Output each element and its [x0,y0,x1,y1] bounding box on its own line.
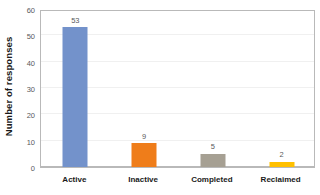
plot-area: 53952 [40,10,315,168]
bar-group: 9 [110,11,179,167]
bar-value-label: 9 [142,133,146,141]
y-axis-title: Number of responses [0,0,18,172]
y-axis-tick-label: 60 [27,6,35,15]
x-axis-tick-label: Reclaimed [261,175,301,184]
bar-value-label: 5 [211,143,215,151]
bar-completed[interactable] [200,154,225,167]
bar-group: 2 [247,11,316,167]
bar-value-label: 53 [71,17,79,25]
bar-chart: Number of responses 0102030405060 53952 … [0,0,320,195]
x-axis-tick-labels: ActiveInactiveCompletedReclaimed [40,170,315,192]
bar-active[interactable] [63,27,88,167]
y-axis-tick-labels: 0102030405060 [18,10,38,168]
y-axis-tick-label: 40 [27,58,35,67]
x-axis-tick-label: Completed [191,175,232,184]
x-axis-tick-label: Active [62,175,86,184]
y-axis-tick-label: 0 [31,164,35,173]
bar-group: 5 [179,11,248,167]
bar-reclaimed[interactable] [269,162,294,167]
y-axis-tick-label: 50 [27,32,35,41]
bars-layer: 53952 [41,11,314,167]
x-axis-tick-label: Inactive [128,175,158,184]
bar-group: 53 [41,11,110,167]
y-axis-tick-label: 10 [27,137,35,146]
bar-inactive[interactable] [132,143,157,167]
y-axis-tick-label: 30 [27,85,35,94]
y-axis-title-text: Number of responses [4,36,15,136]
y-axis-tick-label: 20 [27,111,35,120]
bar-value-label: 2 [280,151,284,159]
